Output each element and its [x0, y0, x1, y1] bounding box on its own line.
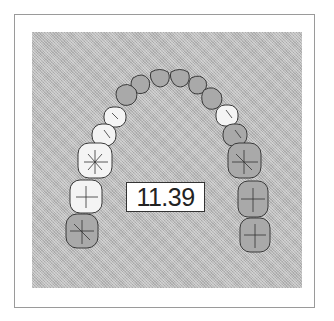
- tooth-icon: [216, 105, 238, 126]
- tooth-icon: [170, 70, 189, 88]
- tooth-icon: [116, 84, 137, 105]
- measurement-value-label: 11.39: [126, 182, 205, 212]
- tooth-icon: [150, 70, 169, 88]
- dental-arch-diagram: [0, 0, 334, 321]
- tooth-icon: [202, 88, 222, 110]
- tooth-icon: [228, 143, 261, 178]
